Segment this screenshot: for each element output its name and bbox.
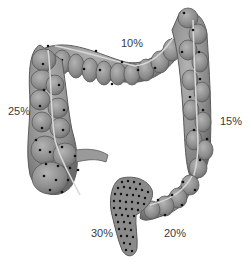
ascending-colon-percentage: 25% [8, 106, 30, 117]
sigmoid-colon-percentage: 20% [164, 228, 186, 239]
descending-colon-percentage: 15% [220, 116, 242, 127]
transverse-colon [45, 20, 185, 85]
colon-diagram: 10% 25% 15% 30% 20% [0, 0, 251, 267]
descending-colon [172, 8, 213, 185]
transverse-colon-percentage: 10% [121, 38, 143, 49]
rectum-percentage: 30% [91, 228, 113, 239]
